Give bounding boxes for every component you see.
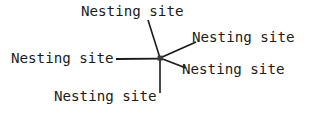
spoke-label-bottom: Nesting site	[54, 89, 157, 104]
spoke-label-lower-right: Nesting site	[182, 62, 285, 77]
diagram-canvas: Nesting site Nesting site Nesting site N…	[0, 0, 315, 114]
spoke-label-left: Nesting site	[11, 51, 114, 66]
spoke-line-top	[148, 20, 160, 58]
spoke-label-top: Nesting site	[81, 4, 184, 19]
spoke-label-upper-right: Nesting site	[192, 30, 295, 45]
hub-marker	[158, 56, 163, 61]
spoke-line-upper-right	[160, 42, 196, 58]
